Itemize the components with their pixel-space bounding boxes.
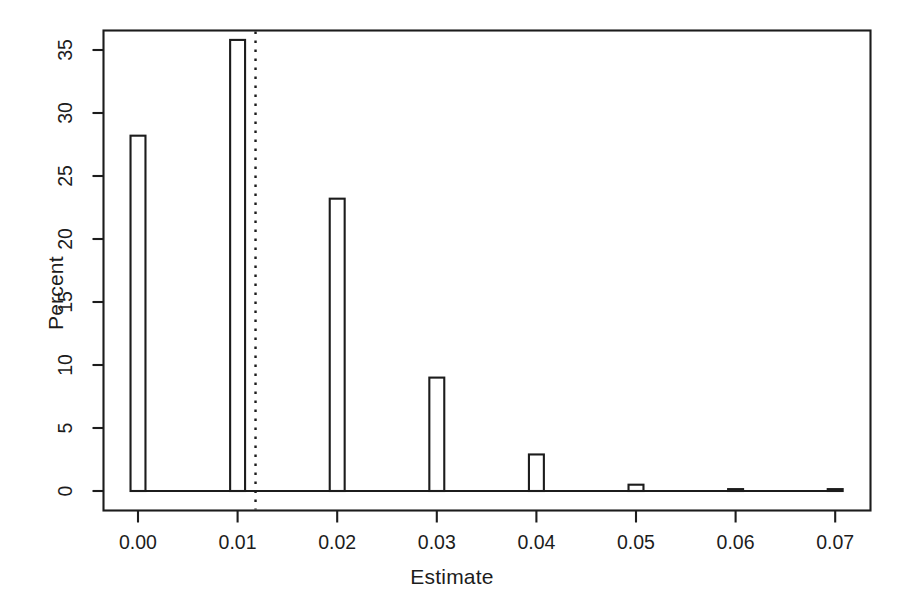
- x-axis-title: Estimate: [0, 565, 904, 589]
- x-tick-label-0.03: 0.03: [387, 531, 487, 554]
- y-tick-label-5: 5: [53, 407, 77, 449]
- y-tick-label-30: 30: [53, 92, 77, 134]
- plot-canvas: [0, 0, 904, 607]
- histogram-figure: Estimate Percent 051015202530350.000.010…: [0, 0, 904, 607]
- y-tick-label-20: 20: [53, 218, 77, 260]
- bar-0.04: [529, 454, 544, 491]
- x-tick-label-0.01: 0.01: [188, 531, 288, 554]
- y-tick-label-0: 0: [53, 470, 77, 512]
- bar-0.02: [330, 199, 345, 491]
- x-tick-label-0.07: 0.07: [785, 531, 885, 554]
- x-tick-label-0.05: 0.05: [586, 531, 686, 554]
- bar-0.05: [629, 485, 644, 491]
- bar-0.07: [828, 489, 843, 491]
- bar-0.06: [728, 489, 743, 491]
- bar-0.01: [230, 40, 245, 491]
- x-tick-label-0.02: 0.02: [287, 531, 387, 554]
- bar-0.00: [131, 136, 146, 491]
- bar-0.03: [429, 378, 444, 491]
- y-tick-label-10: 10: [53, 344, 77, 386]
- x-tick-label-0.06: 0.06: [686, 531, 786, 554]
- plot-frame: [104, 31, 871, 511]
- x-tick-label-0.04: 0.04: [486, 531, 586, 554]
- y-tick-label-35: 35: [53, 29, 77, 71]
- y-tick-label-25: 25: [53, 155, 77, 197]
- y-tick-label-15: 15: [53, 281, 77, 323]
- x-tick-label-0.00: 0.00: [88, 531, 188, 554]
